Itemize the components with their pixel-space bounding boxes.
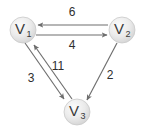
node-v2[interactable]: V 2: [109, 17, 135, 43]
edge-weight-v3-v1: 11: [52, 59, 65, 73]
edge-weight-v1-v2: 4: [69, 38, 76, 52]
node-v2-label: V: [114, 20, 124, 37]
graph-canvas: 6 4 11 3 2 V 1: [0, 0, 144, 136]
edge-v2-to-v3: 2: [87, 43, 117, 100]
node-v2-subscript: 2: [125, 29, 130, 39]
node-v3-subscript: 3: [80, 111, 85, 121]
edge-weight-v1-v3: 3: [28, 71, 35, 85]
node-v1-subscript: 1: [26, 29, 31, 39]
edge-v2-to-v1: 6: [38, 5, 108, 25]
edge-v1-to-v2: 4: [36, 35, 107, 52]
edge-v3-to-v1: 11: [34, 45, 72, 99]
graph-figure: 6 4 11 3 2 V 1: [0, 0, 144, 136]
edge-weight-v2-v1: 6: [69, 5, 76, 19]
node-v3[interactable]: V 3: [64, 99, 90, 125]
node-v3-label: V: [69, 102, 79, 119]
node-v1[interactable]: V 1: [10, 17, 36, 43]
node-v1-label: V: [15, 20, 25, 37]
edge-weight-v2-v3: 2: [107, 68, 114, 82]
